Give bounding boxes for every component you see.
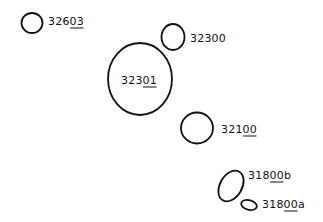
label-underlined: 01 xyxy=(143,74,157,87)
feature-outline xyxy=(22,13,43,33)
feature-outline xyxy=(162,24,185,50)
feature-label: 32300 xyxy=(190,32,226,45)
label-main: 321 xyxy=(221,123,243,136)
label-main: 326 xyxy=(48,15,70,28)
feature-outline xyxy=(240,198,258,211)
feature-label: 32100 xyxy=(221,123,257,136)
label-underlined: 03 xyxy=(70,15,84,28)
feature-label: 31800b xyxy=(248,169,291,182)
label-underlined: 00 xyxy=(270,169,284,182)
label-underlined: 00 xyxy=(284,198,298,211)
label-suffix: b xyxy=(284,169,291,182)
label-main: 323 xyxy=(121,74,143,87)
feature-f32603: 32603 xyxy=(22,13,85,33)
label-main: 318 xyxy=(248,169,270,182)
label-underlined: 00 xyxy=(243,123,257,136)
feature-f31800a: 31800a xyxy=(240,198,305,212)
label-suffix: a xyxy=(298,198,305,211)
feature-outline xyxy=(181,113,213,144)
feature-label: 32301 xyxy=(121,74,157,87)
feature-f32100: 32100 xyxy=(181,113,257,144)
feature-label: 31800a xyxy=(262,198,305,211)
feature-f32301: 32301 xyxy=(108,43,172,115)
site-diagram: 3260332300323013210031800b31800a xyxy=(0,0,323,222)
feature-label: 32603 xyxy=(48,15,84,28)
feature-f32300: 32300 xyxy=(162,24,227,50)
label-main: 32300 xyxy=(190,32,226,45)
label-main: 318 xyxy=(262,198,284,211)
